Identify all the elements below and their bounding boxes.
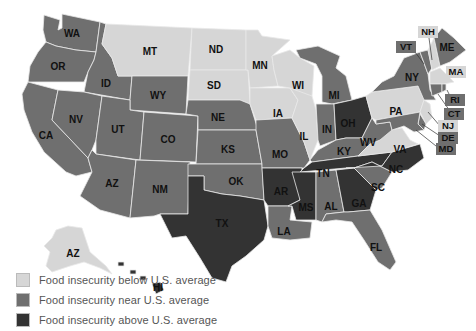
state-label-mn: MN (252, 60, 268, 71)
state-label-wy: WY (150, 90, 166, 101)
leader-de (422, 124, 440, 136)
state-label-fl: FL (370, 242, 382, 253)
svg-text:CT: CT (448, 108, 461, 119)
legend-swatch-below (16, 273, 30, 287)
state-label-pa: PA (389, 106, 402, 117)
state-label-co: CO (161, 134, 176, 145)
svg-text:MD: MD (439, 143, 454, 154)
state-label-la: LA (277, 226, 290, 237)
state-label-va: VA (393, 144, 406, 155)
state-label-sc: SC (371, 182, 385, 193)
state-label-ar: AR (274, 186, 289, 197)
state-label-ct: CT (444, 108, 464, 120)
state-label-id: ID (101, 78, 111, 89)
svg-text:VT: VT (400, 41, 412, 52)
state-label-ky: KY (337, 146, 351, 157)
legend-item-below: Food insecurity below U.S. average (16, 270, 217, 290)
state-label-tx: TX (216, 218, 229, 229)
state-label-ma: MA (446, 66, 466, 78)
state-label-ok: OK (229, 176, 245, 187)
state-label-mo: MO (272, 149, 288, 160)
svg-text:RI: RI (450, 94, 460, 105)
state-label-sd: SD (207, 80, 221, 91)
state-label-al: AL (324, 201, 337, 212)
state-label-mi: MI (328, 90, 339, 101)
leader-md (416, 130, 436, 146)
state-label-wi: WI (292, 80, 304, 91)
svg-text:MA: MA (449, 66, 464, 77)
svg-text:NH: NH (421, 26, 435, 37)
legend-label-below: Food insecurity below U.S. average (39, 274, 216, 286)
state-label-ks: KS (221, 144, 235, 155)
state-label-nc: NC (389, 164, 403, 175)
legend-item-near: Food insecurity near U.S. average (16, 290, 217, 310)
legend-swatch-near (16, 293, 30, 307)
state-label-ga: GA (352, 198, 367, 209)
legend-label-above: Food insecurity above U.S. average (39, 314, 217, 326)
state-ct (430, 84, 442, 96)
state-label-ms: MS (299, 202, 314, 213)
state-label-in: IN (322, 124, 332, 135)
svg-text:DE: DE (441, 132, 454, 143)
svg-text:NJ: NJ (442, 120, 454, 131)
state-label-ne: NE (211, 112, 225, 123)
state-label-nv: NV (69, 114, 83, 125)
state-ri (442, 84, 446, 92)
state-label-ut: UT (111, 124, 124, 135)
legend: Food insecurity below U.S. average Food … (16, 270, 217, 330)
state-label-ny: NY (405, 72, 419, 83)
state-label-nm: NM (152, 184, 168, 195)
state-label-wa: WA (64, 28, 80, 39)
state-label-md: MD (436, 143, 456, 155)
state-label-ak: AZ (66, 248, 79, 259)
state-label-me: ME (440, 42, 455, 53)
legend-swatch-above (16, 313, 30, 327)
state-label-wv: WV (360, 137, 376, 148)
legend-label-near: Food insecurity near U.S. average (39, 294, 209, 306)
state-label-tn: TN (316, 168, 329, 179)
legend-item-above: Food insecurity above U.S. average (16, 310, 217, 330)
state-label-il: IL (300, 131, 309, 142)
state-label-nj: NJ (438, 120, 458, 132)
state-label-oh: OH (341, 118, 356, 129)
state-label-ca: CA (39, 130, 53, 141)
state-label-ri: RI (445, 94, 465, 106)
state-label-vt: VT (396, 41, 416, 53)
state-label-nh: NH (418, 26, 438, 38)
state-label-nd: ND (209, 44, 223, 55)
state-label-az: AZ (105, 178, 118, 189)
state-label-ia: IA (273, 108, 283, 119)
state-fl (322, 210, 396, 270)
state-label-or: OR (51, 61, 67, 72)
state-label-mt: MT (143, 46, 157, 57)
